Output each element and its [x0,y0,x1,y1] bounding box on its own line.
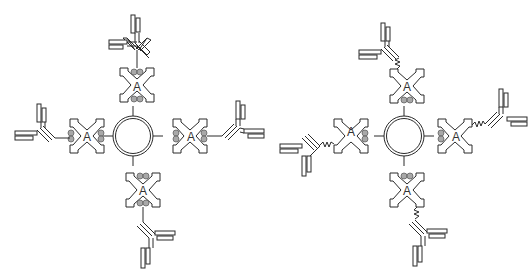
antibody-right [222,101,264,140]
central-bead [113,116,153,156]
antibody-up [359,23,399,61]
protein-a-label: A [133,80,141,94]
panel-left: A A [15,15,264,268]
protein-a-label: A [139,184,147,198]
antibody-left [280,134,320,176]
protein-a-unit-up: A [120,68,154,102]
zigzag-linker-up [395,58,400,69]
antibody-right [485,89,527,128]
protein-a-unit-down: A [390,173,424,207]
protein-a-label: A [403,184,411,198]
protein-a-unit-down: A [126,173,160,207]
protein-a-unit-left: A [334,119,368,153]
protein-a-label: A [347,125,355,139]
antibody-left [15,104,55,142]
panel-right: A A A [280,23,527,266]
protein-a-unit-right: A [173,119,207,153]
central-bead [384,116,424,156]
zigzag-linker-down [414,207,419,219]
protein-a-unit-right: A [438,119,472,153]
zigzag-linker-right [472,121,485,127]
protein-a-label: A [83,130,91,144]
protein-a-unit-left: A [68,119,104,153]
protein-a-label: A [403,80,411,94]
diagram-canvas: A A [0,0,532,278]
zigzag-linker-left [320,142,334,147]
antibody-down [409,220,447,266]
protein-a-label: A [187,130,195,144]
antibody-down [137,222,175,268]
protein-a-label: A [452,130,460,144]
protein-a-unit-up: A [390,69,424,103]
